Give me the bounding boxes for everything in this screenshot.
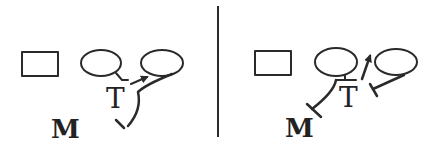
right-inhibition-bar-t (370, 84, 377, 96)
right-label-t: T (339, 81, 358, 114)
right-ellipse-1 (315, 48, 357, 76)
left-arrow-t-to-e2 (131, 77, 147, 84)
left-ellipse-2 (141, 50, 183, 76)
right-panel: T M (255, 48, 417, 143)
right-rectangle (255, 51, 291, 75)
diagram-canvas: T M T M (0, 0, 438, 151)
left-ellipse-1 (81, 50, 121, 76)
left-panel: T M (22, 50, 183, 144)
left-label-t: T (106, 82, 125, 115)
left-inhibition-bar (116, 120, 124, 128)
left-label-m: M (51, 114, 80, 144)
left-rectangle (22, 52, 58, 76)
right-inhibition-t-to-m (312, 80, 336, 109)
right-arrow-t-to-e2 (362, 56, 370, 79)
right-ellipse-2 (375, 49, 417, 75)
right-inhibition-e2-to-t (373, 75, 404, 89)
left-edge-e1-to-t (116, 73, 128, 80)
right-label-m: M (285, 113, 314, 143)
